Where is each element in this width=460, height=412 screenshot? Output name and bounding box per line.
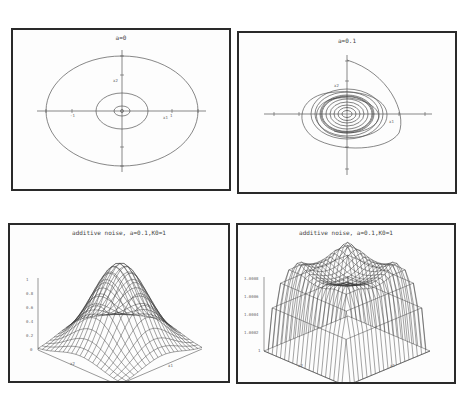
svg-text:0.2: 0.2 [26, 333, 34, 338]
svg-text:1: 1 [26, 277, 29, 282]
svg-text:1.0002: 1.0002 [244, 330, 259, 335]
x2-axis-label: x2 [70, 361, 75, 366]
surface-canvas: 1.0008 1.0006 1.0004 1.0002 1 x2 x1 [238, 225, 454, 382]
x2-axis-label: x2 [298, 363, 303, 368]
svg-text:0.8: 0.8 [26, 291, 34, 296]
wireframe-mesh [38, 263, 202, 381]
surface-canvas: 1 0.8 0.6 0.4 0.2 0 x2 x1 [10, 225, 228, 381]
phase-portrait-canvas: x1 x2 [239, 33, 455, 192]
y-axis-label: x2 [113, 78, 118, 83]
svg-text:1.0008: 1.0008 [244, 276, 259, 281]
svg-text:1.0006: 1.0006 [244, 294, 259, 299]
phase-portrait-canvas: -1 1 x1 x2 [13, 30, 229, 189]
phase-plot-a0: a=0 -1 1 x1 x2 [11, 28, 231, 191]
x1-axis-label: x1 [390, 363, 395, 368]
x1-axis-label: x1 [168, 363, 173, 368]
wireframe-mesh [264, 242, 430, 382]
svg-text:1: 1 [170, 113, 173, 118]
y-axis-label: x2 [334, 83, 339, 88]
svg-text:0.4: 0.4 [26, 319, 34, 324]
x-axis-label: x1 [163, 115, 168, 120]
svg-text:0.6: 0.6 [26, 305, 34, 310]
surface-plot-bump: additive noise, a=0.1,K0=1 1 0.8 0.6 0.4… [8, 223, 230, 383]
svg-text:1.0004: 1.0004 [244, 312, 259, 317]
svg-text:-1: -1 [70, 113, 75, 118]
svg-text:0: 0 [30, 347, 33, 352]
phase-plot-a01: a=0.1 x1 x2 [237, 31, 457, 194]
surface-plot-crater: additive noise, a=0.1,K0=1 1.0008 1.0006… [236, 223, 456, 384]
x-axis-label: x1 [389, 119, 394, 124]
svg-text:1: 1 [258, 348, 261, 353]
